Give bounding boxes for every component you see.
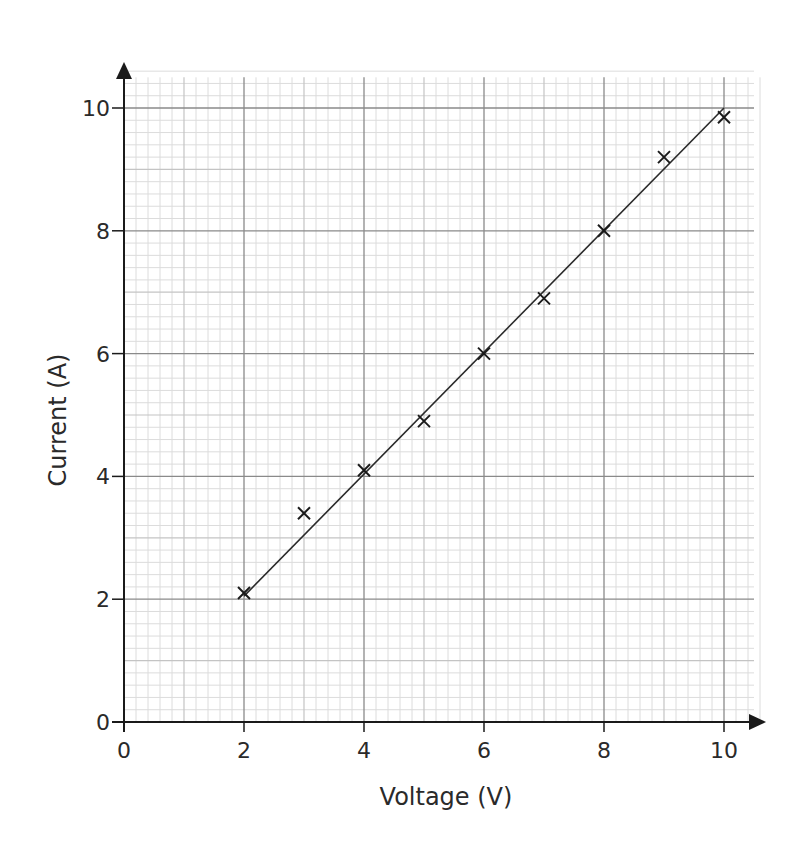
x-tick-label: 0 — [117, 738, 131, 763]
y-tick-label: 2 — [96, 587, 110, 612]
x-tick-label: 10 — [710, 738, 738, 763]
y-axis-tick-labels: 0246810 — [82, 96, 110, 735]
y-tick-label: 6 — [96, 342, 110, 367]
current-voltage-chart: 0246810 0246810 Voltage (V) Current (A) — [0, 0, 803, 860]
x-tick-label: 6 — [477, 738, 491, 763]
y-axis-arrow-icon — [116, 62, 132, 79]
x-axis-title: Voltage (V) — [380, 783, 513, 811]
y-tick-label: 8 — [96, 219, 110, 244]
x-tick-label: 2 — [237, 738, 251, 763]
x-tick-label: 4 — [357, 738, 371, 763]
x-axis-tick-labels: 0246810 — [117, 738, 738, 763]
x-tick-label: 8 — [597, 738, 611, 763]
y-tick-label: 10 — [82, 96, 110, 121]
y-tick-label: 0 — [96, 710, 110, 735]
y-axis-title: Current (A) — [44, 354, 72, 487]
x-axis-arrow-icon — [749, 714, 766, 730]
y-tick-label: 4 — [96, 464, 110, 489]
